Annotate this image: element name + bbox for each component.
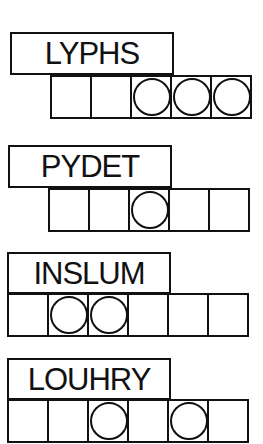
answer-cell-3-circled[interactable] [89,295,129,335]
answer-cell-2[interactable] [49,401,89,441]
answer-cell-5[interactable] [210,190,250,230]
circle-marker-icon [213,78,251,116]
answer-cell-2[interactable] [90,190,130,230]
answer-cell-6[interactable] [209,295,249,335]
circle-marker-icon [131,191,169,229]
scrambled-word-label: LYPHS [10,32,174,75]
answer-cell-4[interactable] [170,190,210,230]
answer-cells [7,293,249,337]
answer-cell-4-circled[interactable] [172,77,212,117]
answer-cells [50,75,252,119]
answer-cell-3-circled[interactable] [89,401,129,441]
scrambled-word-label: LOUHRY [7,358,171,400]
scrambled-word-label: INSLUM [7,252,171,294]
scrambled-word-label: PYDET [8,145,172,188]
circle-marker-icon [170,402,208,440]
answer-cells [48,188,250,232]
answer-cell-3-circled[interactable] [130,190,170,230]
answer-cell-4[interactable] [129,401,169,441]
answer-cell-6[interactable] [209,401,249,441]
circle-marker-icon [173,78,211,116]
answer-cell-2[interactable] [92,77,132,117]
answer-cell-1[interactable] [9,295,49,335]
answer-cell-1[interactable] [52,77,92,117]
answer-cells [7,399,249,443]
answer-cell-1[interactable] [9,401,49,441]
circle-marker-icon [90,402,128,440]
circle-marker-icon [90,296,128,334]
answer-cell-5-circled[interactable] [212,77,252,117]
answer-cell-5[interactable] [169,295,209,335]
answer-cell-4[interactable] [129,295,169,335]
answer-cell-5-circled[interactable] [169,401,209,441]
answer-cell-1[interactable] [50,190,90,230]
circle-marker-icon [50,296,88,334]
answer-cell-3-circled[interactable] [132,77,172,117]
answer-cell-2-circled[interactable] [49,295,89,335]
circle-marker-icon [133,78,171,116]
